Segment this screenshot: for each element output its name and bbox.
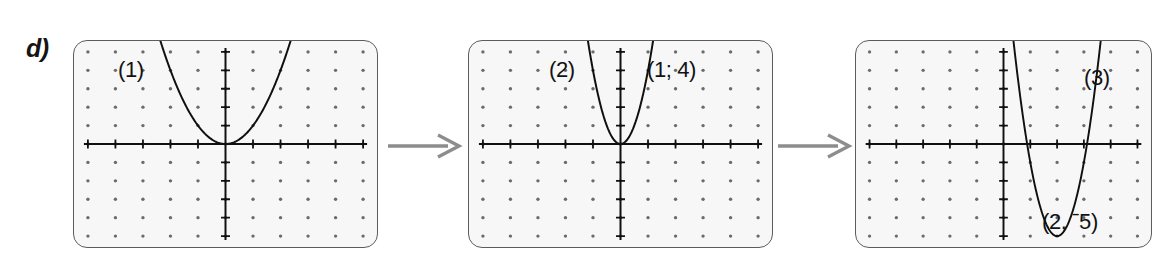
right-arrow-icon — [776, 132, 856, 160]
figure-root: d) (1) (2) (1; 4) — [0, 0, 1174, 264]
panel-2-plot — [469, 41, 772, 247]
graph-panel-3: (3) (2, ˉ5) — [855, 40, 1152, 248]
right-arrow-icon — [386, 132, 466, 160]
panel-2-point-label: (1; 4) — [647, 57, 696, 83]
arrow-1 — [386, 132, 466, 160]
panel-3-number-label: (3) — [1084, 65, 1110, 91]
arrow-2 — [776, 132, 856, 160]
panel-1-number-label: (1) — [118, 57, 144, 83]
panel-3-point-label: (2, ˉ5) — [1042, 209, 1098, 235]
graph-panel-2: (2) (1; 4) — [468, 40, 773, 248]
panel-2-number-label: (2) — [549, 57, 575, 83]
part-label: d) — [26, 34, 49, 63]
graph-panel-1: (1) — [73, 40, 378, 248]
